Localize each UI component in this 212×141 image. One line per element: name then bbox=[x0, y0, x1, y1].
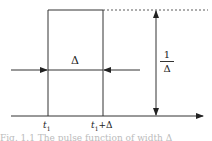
height-label-numerator: 1 bbox=[160, 49, 174, 60]
fraction-bar bbox=[160, 61, 174, 62]
t-end-suffix: +Δ bbox=[98, 120, 112, 130]
t-start-subscript: 1 bbox=[47, 125, 51, 132]
height-label-denominator: Δ bbox=[160, 63, 174, 74]
width-label: Δ bbox=[71, 54, 79, 67]
figure-caption: Fig. 1.1 The pulse function of width Δ bbox=[0, 133, 212, 141]
t-start-label: t1 bbox=[43, 120, 50, 132]
height-label-fraction: 1 Δ bbox=[160, 49, 174, 74]
t-end-label: t1+Δ bbox=[91, 120, 113, 132]
